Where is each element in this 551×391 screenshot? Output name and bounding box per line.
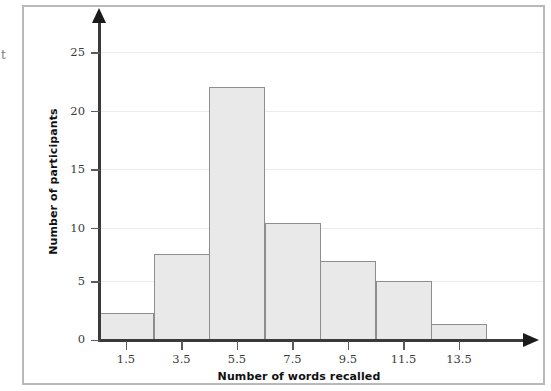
gridline <box>99 111 543 112</box>
y-axis-tick-label: 10 <box>57 223 85 234</box>
y-axis-arrow-icon <box>92 8 106 23</box>
x-axis-tick <box>292 341 294 350</box>
y-axis-tick-label: 20 <box>57 106 85 117</box>
y-axis-tick-label: 5 <box>57 276 85 287</box>
y-axis-tick <box>91 281 100 283</box>
figure-panel: 0 5 10 15 20 25 1.5 3.5 5.5 7.5 9.5 11.5… <box>22 5 545 385</box>
x-axis-tick <box>348 341 350 350</box>
y-axis-tick <box>91 340 100 342</box>
x-axis-tick-label: 11.5 <box>384 353 424 365</box>
y-axis-tick <box>91 52 100 54</box>
x-axis-tick-label: 13.5 <box>439 353 479 365</box>
stray-margin-text: t <box>1 48 6 62</box>
histogram-bar <box>431 324 487 340</box>
x-axis-tick-label: 7.5 <box>273 353 313 365</box>
y-axis-tick-label: 15 <box>57 164 85 175</box>
histogram-bar <box>320 261 376 340</box>
x-axis-tick <box>459 341 461 350</box>
x-axis-tick <box>237 341 239 350</box>
histogram-bar <box>98 313 154 340</box>
y-axis-line <box>98 20 101 340</box>
gridline <box>99 169 543 170</box>
x-axis-tick-label: 1.5 <box>106 353 146 365</box>
gridline <box>99 52 543 53</box>
x-axis-tick <box>181 341 183 350</box>
x-axis-title: Number of words recalled <box>99 370 499 383</box>
x-axis-arrow-icon <box>523 333 539 347</box>
y-axis-tick <box>91 169 100 171</box>
y-axis-tick-label: 25 <box>57 47 85 58</box>
histogram-bar <box>154 254 210 340</box>
gridline <box>99 228 543 229</box>
histogram-bar <box>265 223 321 340</box>
x-axis-tick-label: 9.5 <box>328 353 368 365</box>
y-axis-title: Number of participants <box>47 77 60 287</box>
y-axis-tick <box>91 111 100 113</box>
x-axis-tick <box>126 341 128 350</box>
x-axis-tick-label: 5.5 <box>217 353 257 365</box>
histogram-plot-area: 0 5 10 15 20 25 1.5 3.5 5.5 7.5 9.5 11.5… <box>24 7 543 383</box>
x-axis-tick-label: 3.5 <box>162 353 202 365</box>
histogram-bar <box>209 87 265 340</box>
histogram-bar <box>376 281 432 340</box>
x-axis-tick <box>403 341 405 350</box>
x-axis-line <box>98 339 525 342</box>
y-axis-tick <box>91 228 100 230</box>
y-axis-tick-label: 0 <box>57 334 85 345</box>
